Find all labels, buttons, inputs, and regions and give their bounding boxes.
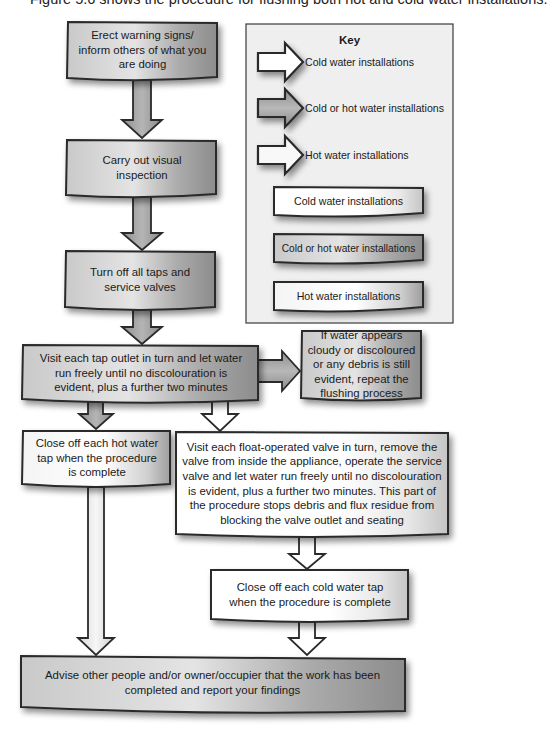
arrow-step3-to-step4-icon bbox=[122, 307, 162, 344]
step-1-text: Erect warning signs/ inform others of wh… bbox=[74, 28, 211, 72]
arrow-step4-to-step5-icon bbox=[258, 351, 300, 391]
step-2-text: Carry out visual inspection bbox=[84, 153, 200, 182]
key-arrow-hot-label: Hot water installations bbox=[305, 149, 409, 161]
step-7-box: Visit each float-operated valve in turn,… bbox=[178, 433, 446, 534]
step-6-box: Close off each hot water tap when the pr… bbox=[28, 431, 166, 485]
arrow-step2-to-step3-icon bbox=[122, 196, 162, 250]
step-8-box: Close off each cold water tap when the p… bbox=[221, 570, 399, 619]
key-title: Key bbox=[246, 34, 453, 46]
arrow-step7-to-step8-cold-icon bbox=[289, 536, 325, 569]
step-7-text: Visit each float-operated valve in turn,… bbox=[180, 440, 444, 528]
key-arrow-cold-or-hot-label: Cold or hot water installations bbox=[305, 102, 444, 114]
arrow-step6-to-step9-hot-icon bbox=[78, 487, 114, 655]
step-9-text: Advise other people and/or owner/occupie… bbox=[41, 668, 384, 697]
step-2-box: Carry out visual inspection bbox=[78, 141, 206, 195]
step-4-box: Visit each tap outlet in turn and let wa… bbox=[28, 346, 254, 400]
step-8-text: Close off each cold water tap when the p… bbox=[227, 580, 393, 609]
arrow-step8-to-step9-cold-icon bbox=[289, 621, 325, 655]
arrow-step4-to-step7-cold-icon bbox=[202, 401, 238, 431]
key-box-cold-label: Cold water installations bbox=[274, 188, 423, 214]
arrow-step4-to-step6-hot-icon bbox=[79, 401, 113, 429]
step-5-text: If water appears cloudy or discoloured o… bbox=[305, 328, 418, 401]
arrow-step1-to-step2-icon bbox=[122, 78, 162, 138]
key-box-hot-label: Hot water installations bbox=[274, 282, 423, 309]
step-1-box: Erect warning signs/ inform others of wh… bbox=[68, 23, 217, 77]
step-3-text: Turn off all taps and service valves bbox=[82, 265, 198, 294]
step-6-text: Close off each hot water tap when the pr… bbox=[34, 436, 160, 480]
step-5-box: If water appears cloudy or discoloured o… bbox=[302, 331, 421, 398]
step-4-text: Visit each tap outlet in turn and let wa… bbox=[34, 351, 248, 395]
key-arrow-cold-label: Cold water installations bbox=[305, 56, 414, 68]
step-9-box: Advise other people and/or owner/occupie… bbox=[35, 657, 390, 709]
key-box-cold-or-hot-label: Cold or hot water installations bbox=[274, 235, 423, 261]
step-3-box: Turn off all taps and service valves bbox=[76, 252, 204, 307]
